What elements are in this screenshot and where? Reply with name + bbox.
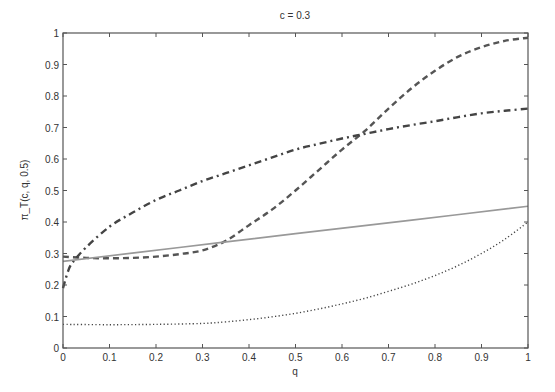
y-tick-label: 0 <box>53 343 59 354</box>
y-tick-label: 0.2 <box>45 280 59 291</box>
x-tick-label: 0.7 <box>382 352 396 363</box>
y-axis-label: π_T(c, q, 0.5) <box>19 160 30 221</box>
y-tick-label: 1 <box>53 28 59 39</box>
x-tick-label: 0 <box>60 352 66 363</box>
x-tick-label: 0.8 <box>428 352 442 363</box>
x-axis-label: q <box>292 366 298 377</box>
y-tick-label: 0.3 <box>45 249 59 260</box>
y-tick-label: 0.5 <box>45 186 59 197</box>
y-tick-label: 0.8 <box>45 91 59 102</box>
y-axis: 00.10.20.30.40.50.60.70.80.91 <box>45 28 528 354</box>
y-tick-label: 0.9 <box>45 60 59 71</box>
series-dashed <box>63 38 528 259</box>
series-dotted <box>63 222 528 325</box>
y-tick-label: 0.1 <box>45 312 59 323</box>
x-axis: 00.10.20.30.40.50.60.70.80.91 <box>60 33 531 363</box>
x-tick-label: 0.6 <box>335 352 349 363</box>
x-tick-label: 1 <box>525 352 531 363</box>
series-layer <box>63 38 528 325</box>
y-tick-label: 0.4 <box>45 217 59 228</box>
line-chart: c = 0.3 00.10.20.30.40.50.60.70.80.91 00… <box>0 0 555 392</box>
x-tick-label: 0.5 <box>289 352 303 363</box>
series-dash-dot <box>63 109 528 289</box>
x-tick-label: 0.3 <box>196 352 210 363</box>
x-tick-label: 0.4 <box>242 352 256 363</box>
series-solid <box>63 206 528 261</box>
x-tick-label: 0.1 <box>103 352 117 363</box>
y-tick-label: 0.7 <box>45 123 59 134</box>
x-tick-label: 0.2 <box>149 352 163 363</box>
y-tick-label: 0.6 <box>45 154 59 165</box>
x-tick-label: 0.9 <box>475 352 489 363</box>
chart-title: c = 0.3 <box>280 10 311 21</box>
